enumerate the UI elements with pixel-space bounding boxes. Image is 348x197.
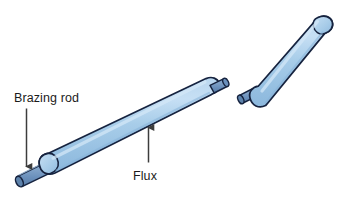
flux-shadow-left <box>57 93 210 170</box>
upper-right-rod-segment <box>236 16 332 107</box>
flux-highlight-right <box>262 22 318 91</box>
brazing-rod-diagram: Brazing rod Flux <box>0 0 348 197</box>
brazing-rod-label: Brazing rod <box>14 91 79 105</box>
flux-label: Flux <box>133 169 158 183</box>
flux-annotation: Flux <box>133 128 158 184</box>
diagram-canvas: Brazing rod Flux <box>0 0 348 197</box>
